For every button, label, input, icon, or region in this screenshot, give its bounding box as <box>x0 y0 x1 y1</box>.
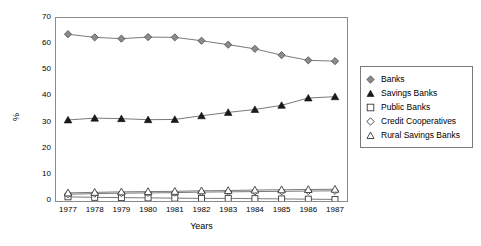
series-banks <box>64 31 338 65</box>
data-point-diamond-filled <box>64 31 71 38</box>
y-tick-label: 20 <box>21 144 51 152</box>
data-point-diamond-filled <box>145 33 152 40</box>
y-tick-label: 70 <box>21 13 51 21</box>
data-point-diamond-filled <box>198 37 205 44</box>
data-point-diamond-filled <box>278 52 285 59</box>
x-tick-label: 1979 <box>106 205 136 214</box>
legend-item-label: Credit Cooperatives <box>381 117 456 126</box>
x-tick-label: 1986 <box>293 205 323 214</box>
x-axis-tick-labels: 1977197819791980198119821983198419851986… <box>55 205 348 219</box>
y-tick-label: 50 <box>21 65 51 73</box>
chart-figure: % 010203040506070 1977197819791980198119… <box>0 0 481 246</box>
y-tick-label: 40 <box>21 91 51 99</box>
data-point-diamond-filled <box>251 45 258 52</box>
x-tick-label: 1978 <box>80 205 110 214</box>
data-point-diamond-filled <box>118 35 125 42</box>
data-point-square-open <box>305 196 311 201</box>
legend-item-banks[interactable]: Banks <box>365 72 468 86</box>
x-tick-label: 1985 <box>267 205 297 214</box>
y-tick-label: 30 <box>21 118 51 126</box>
data-point-diamond-filled <box>225 41 232 48</box>
legend-item-label: Public Banks <box>381 103 430 112</box>
series-canvas <box>56 18 347 201</box>
triangle-open-icon <box>365 130 376 141</box>
data-point-diamond-filled <box>305 57 312 64</box>
x-tick-label: 1983 <box>213 205 243 214</box>
diamond-filled-icon <box>365 74 376 85</box>
data-point-diamond-filled <box>171 34 178 41</box>
y-tick-label: 60 <box>21 39 51 47</box>
legend-item-credit-cooperatives[interactable]: Credit Cooperatives <box>365 114 468 128</box>
legend: BanksSavings BanksPublic BanksCredit Coo… <box>360 66 473 148</box>
legend-item-label: Savings Banks <box>381 89 437 98</box>
y-axis-tick-labels: 010203040506070 <box>18 17 51 202</box>
y-tick-label: 10 <box>21 170 51 178</box>
legend-item-savings-banks[interactable]: Savings Banks <box>365 86 468 100</box>
data-point-diamond-filled <box>91 34 98 41</box>
x-tick-label: 1981 <box>160 205 190 214</box>
square-open-icon <box>365 102 376 113</box>
data-point-square-open <box>252 196 258 201</box>
legend-item-label: Rural Savings Banks <box>381 131 460 140</box>
data-point-square-open <box>332 196 338 201</box>
legend-item-rural-savings-banks[interactable]: Rural Savings Banks <box>365 128 468 142</box>
x-tick-label: 1987 <box>320 205 350 214</box>
x-tick-label: 1980 <box>133 205 163 214</box>
x-axis-title: Years <box>55 221 348 231</box>
data-point-diamond-filled <box>331 58 338 65</box>
legend-item-label: Banks <box>381 75 405 84</box>
triangle-filled-icon <box>365 88 376 99</box>
diamond-open-icon <box>365 116 376 127</box>
x-tick-label: 1977 <box>53 205 83 214</box>
legend-item-public-banks[interactable]: Public Banks <box>365 100 468 114</box>
plot-area <box>55 17 348 202</box>
series-savings-banks <box>64 93 339 123</box>
x-tick-label: 1984 <box>240 205 270 214</box>
data-point-square-open <box>225 195 231 201</box>
y-tick-label: 0 <box>21 196 51 204</box>
data-point-square-open <box>279 196 285 201</box>
x-tick-label: 1982 <box>187 205 217 214</box>
